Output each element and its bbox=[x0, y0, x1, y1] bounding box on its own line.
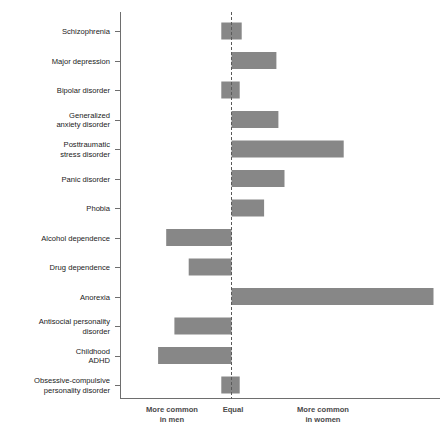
bar bbox=[232, 200, 265, 217]
chart-canvas: SchizophreniaMajor depressionBipolar dis… bbox=[0, 0, 442, 440]
bar bbox=[166, 229, 231, 246]
category-label: Antisocial personality bbox=[39, 317, 111, 326]
bar bbox=[174, 318, 231, 335]
category-label: Posttraumatic bbox=[64, 140, 111, 149]
category-label: stress disorder bbox=[60, 150, 110, 159]
bar bbox=[232, 288, 434, 305]
category-label: Childhood bbox=[76, 347, 110, 356]
category-label: disorder bbox=[83, 327, 111, 336]
sex-differences-mental-disorders-chart: SchizophreniaMajor depressionBipolar dis… bbox=[0, 0, 442, 440]
bar bbox=[232, 141, 344, 158]
category-label: Bipolar disorder bbox=[57, 86, 111, 95]
category-label: ADHD bbox=[88, 356, 110, 365]
category-label: Generalized bbox=[69, 111, 110, 120]
category-label: anxiety disorder bbox=[56, 120, 110, 129]
category-label: Obsessive-compulsive bbox=[34, 376, 110, 385]
bar bbox=[221, 23, 241, 40]
category-label: personality disorder bbox=[44, 386, 111, 395]
bar bbox=[221, 82, 239, 99]
category-label: Phobia bbox=[86, 204, 110, 213]
category-label: Major depression bbox=[52, 57, 110, 66]
x-axis-captions-group: More common in men Equal More common in … bbox=[146, 405, 349, 424]
caption-equal: Equal bbox=[223, 405, 244, 414]
bar bbox=[232, 52, 277, 69]
caption-more-common-in-men-line2: in men bbox=[160, 415, 185, 424]
y-axis-ticks-group bbox=[115, 32, 121, 386]
bar bbox=[221, 377, 239, 394]
bars-group bbox=[158, 23, 433, 394]
bar bbox=[158, 347, 231, 364]
bar bbox=[189, 259, 232, 276]
caption-more-common-in-women-line2: in women bbox=[305, 415, 340, 424]
bar bbox=[232, 170, 285, 187]
category-label: Alcohol dependence bbox=[41, 234, 110, 243]
category-label: Panic disorder bbox=[61, 175, 110, 184]
caption-more-common-in-women-line1: More common bbox=[297, 405, 349, 414]
category-label: Drug dependence bbox=[50, 263, 110, 272]
category-label: Schizophrenia bbox=[62, 27, 111, 36]
bar bbox=[232, 111, 279, 128]
category-label: Anorexia bbox=[80, 293, 111, 302]
category-labels-group: SchizophreniaMajor depressionBipolar dis… bbox=[34, 27, 111, 395]
caption-more-common-in-men-line1: More common bbox=[146, 405, 198, 414]
